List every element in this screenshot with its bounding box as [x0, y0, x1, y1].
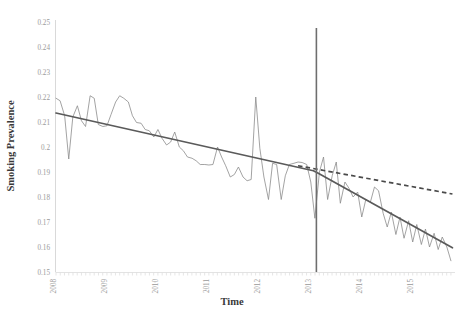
smoking-prevalence-chart: 0.250.240.230.220.210.20.190.180.170.160…	[0, 0, 465, 316]
y-tick-label: 0.17	[37, 219, 50, 227]
y-tick-label: 0.24	[37, 44, 50, 52]
y-tick-label: 0.23	[37, 69, 50, 77]
y-tick-label: 0.22	[37, 94, 50, 102]
x-tick-label: 2011	[203, 279, 211, 294]
y-tick-label: 0.25	[37, 19, 50, 27]
x-tick-label: 2014	[356, 279, 364, 294]
y-tick-label: 0.19	[37, 169, 50, 177]
y-tick-label: 0.21	[37, 119, 50, 127]
y-tick-label: 0.16	[37, 244, 50, 252]
x-tick-label: 2008	[50, 279, 58, 294]
x-axis-title: Time	[220, 296, 243, 307]
x-tick-label: 2012	[254, 279, 262, 294]
chart-background	[0, 0, 465, 316]
x-tick-label: 2013	[305, 279, 313, 294]
y-tick-label: 0.15	[37, 269, 50, 277]
y-tick-label: 0.2	[41, 144, 50, 152]
x-tick-label: 2010	[152, 279, 160, 294]
x-tick-label: 2009	[101, 279, 109, 294]
y-tick-label: 0.18	[37, 194, 50, 202]
x-tick-label: 2015	[407, 279, 415, 294]
y-axis-title: Smoking Prevalence	[5, 100, 16, 191]
chart-container: 0.250.240.230.220.210.20.190.180.170.160…	[0, 0, 465, 316]
